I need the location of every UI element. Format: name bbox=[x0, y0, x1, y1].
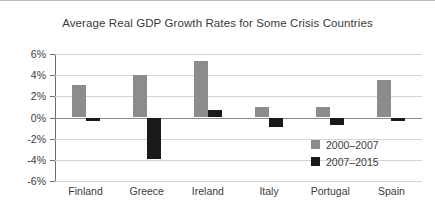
x-axis-category-label: Greece bbox=[130, 185, 164, 197]
y-axis-tick-mark bbox=[50, 118, 55, 119]
y-axis-tick-label: 6% bbox=[2, 48, 46, 60]
gridline bbox=[55, 54, 422, 55]
legend-label: 2000–2007 bbox=[326, 139, 379, 151]
y-axis-tick-labels: 6%4%2%0%-2%-4%-6% bbox=[0, 54, 46, 181]
x-axis-category-label: Ireland bbox=[192, 185, 224, 197]
bar[interactable] bbox=[194, 61, 208, 117]
chart-title: Average Real GDP Growth Rates for Some C… bbox=[0, 17, 435, 29]
gdp-growth-bar-chart: Average Real GDP Growth Rates for Some C… bbox=[0, 0, 435, 215]
y-axis-tick-label: -2% bbox=[2, 133, 46, 145]
bar-group bbox=[255, 54, 283, 181]
bar[interactable] bbox=[72, 85, 86, 118]
legend-swatch-icon bbox=[311, 140, 320, 149]
legend-item[interactable]: 2007–2015 bbox=[311, 154, 421, 169]
y-axis-tick-mark bbox=[50, 96, 55, 97]
bar[interactable] bbox=[208, 110, 222, 117]
y-axis-tick-mark bbox=[50, 75, 55, 76]
legend-item[interactable]: 2000–2007 bbox=[311, 137, 421, 152]
y-axis-tick-label: 4% bbox=[2, 69, 46, 81]
bar-group bbox=[194, 54, 222, 181]
gridline bbox=[55, 75, 422, 76]
x-axis-category-label: Portugal bbox=[311, 185, 350, 197]
bar-group bbox=[72, 54, 100, 181]
bar-group bbox=[133, 54, 161, 181]
x-axis-category-label: Spain bbox=[378, 185, 405, 197]
bar[interactable] bbox=[147, 118, 161, 159]
legend-swatch-icon bbox=[311, 157, 320, 166]
y-axis-tick-mark bbox=[50, 54, 55, 55]
x-axis-category-labels: FinlandGreeceIrelandItalyPortugalSpain bbox=[55, 185, 422, 205]
bar[interactable] bbox=[269, 118, 283, 128]
y-axis-tick-label: -4% bbox=[2, 154, 46, 166]
y-axis-tick-label: -6% bbox=[2, 175, 46, 187]
y-axis-tick-mark bbox=[50, 139, 55, 140]
y-axis-tick-label: 2% bbox=[2, 90, 46, 102]
bar[interactable] bbox=[330, 118, 344, 125]
y-axis-tick-label: 0% bbox=[2, 112, 46, 124]
gridline bbox=[55, 96, 422, 97]
legend-label: 2007–2015 bbox=[326, 156, 379, 168]
bar[interactable] bbox=[255, 107, 269, 118]
y-axis-tick-mark bbox=[50, 160, 55, 161]
x-axis-category-label: Finland bbox=[68, 185, 102, 197]
bar[interactable] bbox=[133, 75, 147, 117]
bar[interactable] bbox=[377, 80, 391, 117]
bar[interactable] bbox=[316, 107, 330, 118]
bar[interactable] bbox=[86, 118, 100, 121]
x-axis-category-label: Italy bbox=[259, 185, 278, 197]
zero-line bbox=[55, 118, 422, 119]
gridline bbox=[55, 181, 422, 182]
chart-legend: 2000–20072007–2015 bbox=[311, 137, 421, 171]
y-axis-tick-mark bbox=[50, 181, 55, 182]
bar[interactable] bbox=[391, 118, 405, 121]
